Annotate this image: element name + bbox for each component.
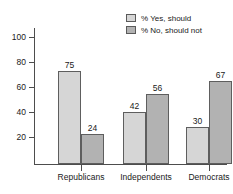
bar-wrap-democrats-yes: 30 <box>186 127 209 164</box>
bar-group-democrats: 30 67 <box>186 81 232 164</box>
bar-chart: % Yes, should % No, should not 100 80 60… <box>0 0 233 194</box>
y-tick-label-100: 100 <box>12 32 26 42</box>
bar-independents-yes[interactable] <box>123 112 146 164</box>
bar-value-republicans-yes: 75 <box>65 60 74 70</box>
bar-independents-no[interactable] <box>146 94 169 164</box>
y-tick-label-20: 20 <box>17 132 26 142</box>
bar-republicans-yes[interactable] <box>58 71 81 164</box>
bar-value-independents-yes: 42 <box>130 101 139 111</box>
bar-wrap-republicans-no: 24 <box>81 134 104 164</box>
bar-wrap-republicans-yes: 75 <box>58 71 81 164</box>
bar-democrats-yes[interactable] <box>186 127 209 164</box>
x-category-label-republicans: Republicans <box>58 172 105 182</box>
bar-wrap-independents-no: 56 <box>146 94 169 164</box>
y-tick-label-60: 60 <box>17 82 26 92</box>
bar-value-republicans-no: 24 <box>88 123 97 133</box>
bar-value-independents-no: 56 <box>153 83 162 93</box>
x-tick-independents <box>146 165 147 171</box>
legend-item-yes: % Yes, should <box>126 13 202 23</box>
x-category-label-independents: Independents <box>120 172 172 182</box>
legend-swatch-yes-icon <box>126 14 136 22</box>
x-tick-democrats <box>209 165 210 171</box>
y-tick-label-80: 80 <box>17 57 26 67</box>
bar-group-independents: 42 56 <box>123 94 169 164</box>
legend-label-yes: % Yes, should <box>141 14 191 23</box>
bar-value-democrats-no: 67 <box>216 70 225 80</box>
x-tick-republicans <box>81 165 82 171</box>
bar-democrats-no[interactable] <box>209 81 232 164</box>
plot-area: 75 24 42 56 <box>34 28 227 165</box>
y-tick-label-40: 40 <box>17 107 26 117</box>
bar-wrap-democrats-no: 67 <box>209 81 232 164</box>
bar-republicans-no[interactable] <box>81 134 104 164</box>
bar-group-republicans: 75 24 <box>58 71 104 164</box>
bar-wrap-independents-yes: 42 <box>123 112 146 164</box>
x-category-label-democrats: Democrats <box>188 172 229 182</box>
bars-container: 75 24 42 56 <box>34 28 227 165</box>
bar-value-democrats-yes: 30 <box>193 116 202 126</box>
